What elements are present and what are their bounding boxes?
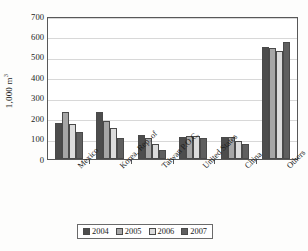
bar xyxy=(283,42,290,159)
bar xyxy=(117,138,124,159)
y-axis-tick-label: 700 xyxy=(16,13,44,22)
y-axis-tick-label: 0 xyxy=(16,156,44,165)
x-axis-category-label: Others xyxy=(285,164,291,170)
x-axis-category-label: United States xyxy=(201,164,207,170)
bar xyxy=(55,123,62,159)
y-axis-tick-label: 200 xyxy=(16,115,44,124)
chart-legend: 2004200520062007 xyxy=(77,224,213,239)
x-axis-category-label: Mexico xyxy=(76,164,82,170)
y-axis-title-text: 1,000 m xyxy=(4,77,14,108)
y-axis-tick-label: 600 xyxy=(16,33,44,42)
bar xyxy=(262,47,269,159)
legend-swatch-icon xyxy=(83,228,90,235)
legend-swatch-icon xyxy=(116,228,123,235)
y-axis-tick-label: 100 xyxy=(16,135,44,144)
legend-entry[interactable]: 2006 xyxy=(149,227,175,236)
bar-group xyxy=(256,18,298,159)
legend-entry[interactable]: 2004 xyxy=(83,227,109,236)
legend-swatch-icon xyxy=(149,228,156,235)
x-axis-category-label: Korea, Rep. of xyxy=(118,164,124,170)
y-axis-title-exponent: 3 xyxy=(2,74,9,77)
legend-entry[interactable]: 2007 xyxy=(181,227,207,236)
legend-label: 2007 xyxy=(190,227,207,236)
legend-entry[interactable]: 2005 xyxy=(116,227,142,236)
bar xyxy=(242,144,249,159)
legend-label: 2006 xyxy=(158,227,175,236)
bar xyxy=(110,128,117,159)
y-axis-tick-label: 400 xyxy=(16,74,44,83)
bar xyxy=(76,132,83,159)
y-axis-tick-label: 300 xyxy=(16,94,44,103)
bar xyxy=(103,121,110,159)
bars-layer xyxy=(48,18,297,159)
bar-group xyxy=(48,18,90,159)
y-axis-title: 1,000 m3 xyxy=(2,56,14,126)
legend-label: 2004 xyxy=(92,227,109,236)
bar xyxy=(62,112,69,159)
y-axis-tick-label: 500 xyxy=(16,53,44,62)
legend-swatch-icon xyxy=(181,228,188,235)
bar xyxy=(269,48,276,159)
bar xyxy=(69,124,76,159)
plot-area xyxy=(47,17,298,160)
bar xyxy=(276,51,283,159)
x-axis-category-labels: MexicoKorea, Rep. ofTaiwan P.O.C.United … xyxy=(47,164,298,216)
x-axis-category-label: Taiwan P.O.C. xyxy=(160,164,166,170)
bar xyxy=(235,141,242,159)
bar xyxy=(152,144,159,159)
bar xyxy=(200,138,207,159)
bar-group xyxy=(90,18,132,159)
y-axis-tick-labels: 7006005004003002001000 xyxy=(16,12,44,164)
legend-label: 2005 xyxy=(125,227,142,236)
x-axis-category-label: China xyxy=(243,164,249,170)
bar-chart-figure: 1,000 m3 7006005004003002001000 MexicoKo… xyxy=(0,0,308,251)
